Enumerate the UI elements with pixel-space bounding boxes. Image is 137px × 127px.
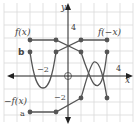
graph-canvas: f(x) f(−x) −f(x) b a y x 4 −2 −2 4 [0, 0, 137, 127]
label-neg-f-x: −f(x) [4, 96, 27, 106]
y-axis-label: y [60, 2, 67, 12]
label-f-x: f(x) [14, 27, 31, 37]
label-b: b [18, 47, 25, 57]
label-a: a [20, 109, 25, 118]
y-tick-neg-2: −2 [54, 93, 66, 102]
y-axis-arrow-down [65, 117, 71, 124]
x-tick-4: 4 [116, 64, 121, 73]
x-axis-label: x [125, 75, 130, 85]
y-tick-4: 4 [71, 23, 76, 32]
label-f-neg-x: f(−x) [97, 27, 121, 37]
x-axis-arrow-left [7, 73, 14, 79]
x-tick-neg-2: −2 [37, 65, 49, 74]
